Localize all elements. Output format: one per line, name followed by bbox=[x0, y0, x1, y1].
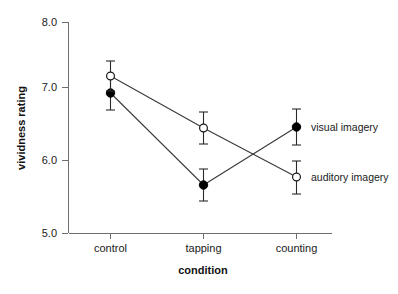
y-axis-title: vividness rating bbox=[15, 86, 27, 170]
data-point-auditory-control bbox=[107, 72, 115, 80]
line-chart: 8.0 7.0 6.0 5.0 control tapping counting… bbox=[0, 0, 398, 294]
y-tick-label-6: 6.0 bbox=[42, 154, 57, 166]
x-tick-label-counting: counting bbox=[276, 242, 318, 254]
data-point-auditory-counting bbox=[293, 173, 301, 181]
data-point-visual-tapping bbox=[199, 181, 207, 189]
y-tick-label-8: 8.0 bbox=[42, 16, 57, 28]
chart-container: 8.0 7.0 6.0 5.0 control tapping counting… bbox=[0, 0, 398, 294]
legend-label-auditory-imagery: auditory imagery bbox=[311, 171, 389, 183]
x-tick-label-control: control bbox=[94, 242, 127, 254]
legend-label-visual-imagery: visual imagery bbox=[311, 121, 379, 133]
y-tick-label-7: 7.0 bbox=[42, 81, 57, 93]
y-tick-label-5: 5.0 bbox=[42, 227, 57, 239]
x-tick-label-tapping: tapping bbox=[185, 242, 221, 254]
data-point-auditory-tapping bbox=[200, 124, 208, 132]
x-axis-title: condition bbox=[178, 264, 228, 276]
data-point-visual-counting bbox=[292, 123, 300, 131]
